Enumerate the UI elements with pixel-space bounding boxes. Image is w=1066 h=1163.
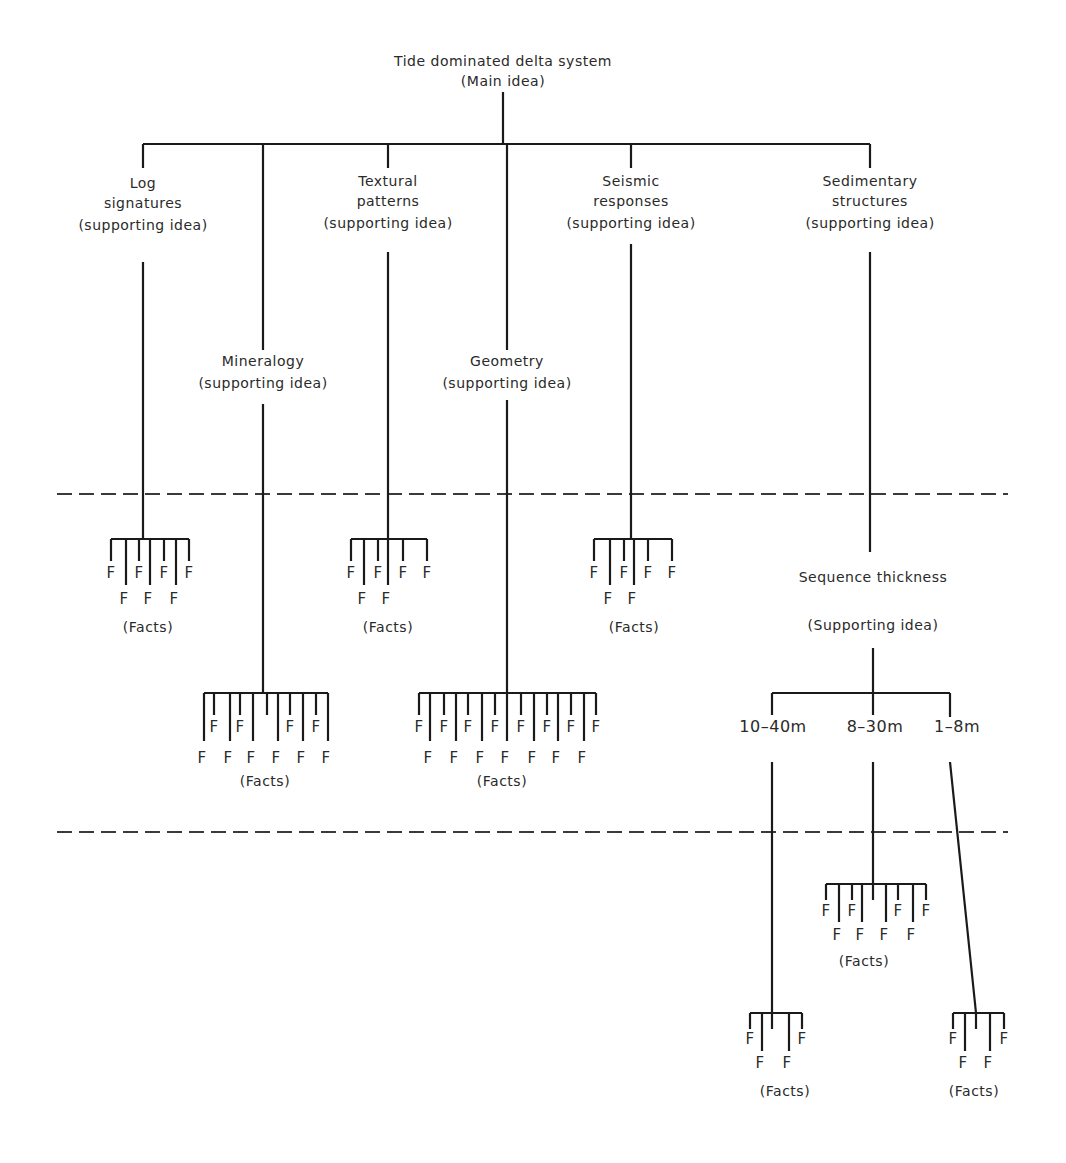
fact-label: F <box>169 590 178 608</box>
facts-group-seismic-facts: FFFFFF(Facts) <box>589 539 676 635</box>
supporting-idea-seismic-responses: Seismicresponses(supporting idea) <box>566 144 695 540</box>
fact-label: F <box>577 749 586 767</box>
fact-label: F <box>948 1030 957 1048</box>
supporting-idea-log-signatures: Logsignatures(supporting idea) <box>78 144 207 540</box>
fact-label: F <box>893 902 902 920</box>
thickness-branch: 8–30m <box>847 693 904 884</box>
fact-label: F <box>271 749 280 767</box>
fact-label: F <box>847 902 856 920</box>
fact-label: F <box>134 564 143 582</box>
thickness-range-label: 8–30m <box>847 717 904 736</box>
fact-label: F <box>463 718 472 736</box>
sequence-thickness-caption: (Supporting idea) <box>808 617 939 633</box>
fact-label: F <box>921 902 930 920</box>
fact-label: F <box>414 718 423 736</box>
facts-caption: (Facts) <box>363 619 413 635</box>
fact-label: F <box>357 590 366 608</box>
fact-label: F <box>755 1054 764 1072</box>
fact-label: F <box>797 1030 806 1048</box>
fact-label: F <box>516 718 525 736</box>
supporting-idea-caption: (supporting idea) <box>198 375 327 391</box>
fact-label: F <box>296 749 305 767</box>
facts-caption: (Facts) <box>477 773 527 789</box>
mind-map-diagram: Tide dominated delta system(Main idea) L… <box>0 0 1066 1163</box>
fact-label: F <box>566 718 575 736</box>
supporting-idea-title: Mineralogy <box>222 353 304 369</box>
facts-group-8-30m-facts: FFFFFFFF(Facts) <box>821 884 930 969</box>
fact-label: F <box>235 718 244 736</box>
supporting-idea-geometry: Geometry(supporting idea) <box>442 144 571 692</box>
facts-caption: (Facts) <box>240 773 290 789</box>
fact-label: F <box>439 718 448 736</box>
supporting-idea-title: Log <box>130 175 157 191</box>
facts-group-textural-facts: FFFFFF(Facts) <box>346 539 431 635</box>
fact-label: F <box>821 902 830 920</box>
fact-label: F <box>527 749 536 767</box>
supporting-idea-caption: (supporting idea) <box>805 215 934 231</box>
main-idea-caption: (Main idea) <box>461 73 545 89</box>
fact-label: F <box>143 590 152 608</box>
fact-label: F <box>983 1054 992 1072</box>
fact-label: F <box>589 564 598 582</box>
fact-label: F <box>745 1030 754 1048</box>
supporting-idea-mineralogy: Mineralogy(supporting idea) <box>198 144 327 692</box>
fact-label: F <box>603 590 612 608</box>
fact-label: F <box>423 749 432 767</box>
thickness-range-label: 10–40m <box>739 717 806 736</box>
fact-label: F <box>422 564 431 582</box>
facts-group-log-facts: FFFFFFF(Facts) <box>106 539 193 635</box>
supporting-idea-title: responses <box>593 193 668 209</box>
supporting-idea-title: Geometry <box>470 353 544 369</box>
level-dividers <box>57 494 1008 832</box>
facts-caption: (Facts) <box>609 619 659 635</box>
fact-label: F <box>591 718 600 736</box>
sequence-thickness-node: Sequence thickness(Supporting idea)10–40… <box>739 569 980 1013</box>
facts-group-1-8m-facts: FFFF(Facts) <box>948 1013 1008 1099</box>
facts-group-geometry-facts: FFFFFFFFFFFFFFF(Facts) <box>414 693 600 789</box>
supporting-idea-title: Textural <box>357 173 417 189</box>
supporting-idea-caption: (supporting idea) <box>442 375 571 391</box>
fact-label: F <box>223 749 232 767</box>
fact-label: F <box>246 749 255 767</box>
fact-label: F <box>197 749 206 767</box>
fact-label: F <box>627 590 636 608</box>
fact-label: F <box>285 718 294 736</box>
thickness-range-label: 1–8m <box>934 717 980 736</box>
supporting-idea-sedimentary-structures: Sedimentarystructures(supporting idea) <box>805 144 934 552</box>
fact-label: F <box>119 590 128 608</box>
supporting-idea-title: Seismic <box>602 173 659 189</box>
fact-label: F <box>879 926 888 944</box>
fact-label: F <box>958 1054 967 1072</box>
fact-label: F <box>398 564 407 582</box>
thickness-branch: 1–8m <box>934 693 980 1013</box>
fact-label: F <box>321 749 330 767</box>
facts-caption: (Facts) <box>123 619 173 635</box>
thickness-branch: 10–40m <box>739 693 806 1013</box>
fact-label: F <box>159 564 168 582</box>
fact-label: F <box>449 749 458 767</box>
supporting-idea-title: Sedimentary <box>822 173 917 189</box>
facts-group-10-40m-facts: FFFF(Facts) <box>745 1013 810 1099</box>
fact-label: F <box>906 926 915 944</box>
fact-label: F <box>311 718 320 736</box>
supporting-idea-title: signatures <box>104 195 182 211</box>
main-idea-node: Tide dominated delta system(Main idea) <box>143 53 870 144</box>
fact-label: F <box>346 564 355 582</box>
thickness-stem-line <box>950 762 976 1013</box>
supporting-idea-textural-patterns: Texturalpatterns(supporting idea) <box>323 144 452 540</box>
fact-label: F <box>619 564 628 582</box>
fact-label: F <box>490 718 499 736</box>
fact-label: F <box>209 718 218 736</box>
fact-label: F <box>782 1054 791 1072</box>
sequence-thickness-title: Sequence thickness <box>799 569 948 585</box>
supporting-idea-caption: (supporting idea) <box>323 215 452 231</box>
fact-label: F <box>551 749 560 767</box>
main-idea-title: Tide dominated delta system <box>393 53 612 69</box>
facts-caption: (Facts) <box>760 1083 810 1099</box>
fact-label: F <box>667 564 676 582</box>
fact-label: F <box>643 564 652 582</box>
fact-label: F <box>373 564 382 582</box>
fact-label: F <box>184 564 193 582</box>
fact-label: F <box>106 564 115 582</box>
supporting-ideas: Logsignatures(supporting idea)Mineralogy… <box>78 144 934 692</box>
